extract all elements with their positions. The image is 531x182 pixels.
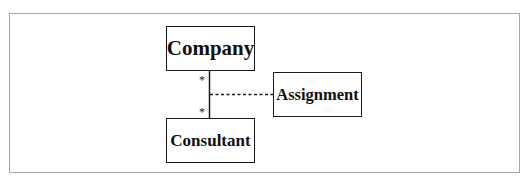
class-label-consultant: Consultant [170,131,250,151]
multiplicity-consultant-end: * [199,106,205,118]
class-box-consultant: Consultant [166,118,255,163]
diagram-frame [9,13,520,173]
class-label-company: Company [167,36,255,61]
class-box-company: Company [166,26,255,71]
multiplicity-company-end: * [199,74,205,86]
class-box-assignment: Assignment [273,72,362,117]
class-label-assignment: Assignment [276,85,359,105]
